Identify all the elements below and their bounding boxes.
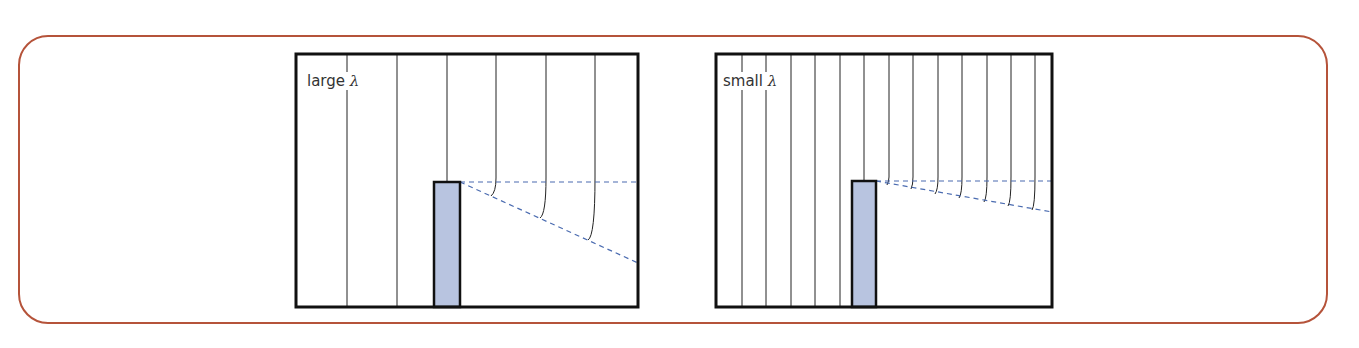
diffraction-spread-edge xyxy=(460,182,638,263)
diffracted-wavefront xyxy=(887,54,889,185)
lambda-symbol: λ xyxy=(768,72,778,90)
label-text: large xyxy=(307,72,350,90)
diffracted-wavefront xyxy=(959,54,962,198)
diffracted-wavefront xyxy=(1032,54,1035,210)
diffraction-diagram xyxy=(0,0,1359,348)
diffracted-wavefront xyxy=(984,54,987,202)
label-small-lambda: small λ xyxy=(721,72,779,90)
diffracted-wavefront xyxy=(491,54,496,196)
lambda-symbol: λ xyxy=(350,72,360,90)
diffracted-wavefront xyxy=(540,54,546,218)
label-large-lambda: large λ xyxy=(305,72,361,90)
barrier xyxy=(852,181,876,307)
barrier xyxy=(434,182,460,307)
diffracted-wavefront xyxy=(935,54,938,194)
diffracted-wavefront xyxy=(588,54,595,240)
diffracted-wavefront xyxy=(1008,54,1011,206)
diffraction-spread-edge xyxy=(876,181,1052,212)
diffracted-wavefront xyxy=(911,54,913,189)
label-text: small xyxy=(723,72,768,90)
